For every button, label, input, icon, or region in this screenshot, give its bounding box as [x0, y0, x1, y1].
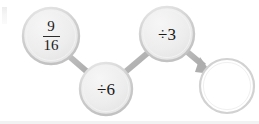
flow-diagram	[0, 0, 259, 124]
node-answer-blank[interactable]	[200, 59, 254, 113]
node-operation-1[interactable]	[80, 63, 132, 115]
node-start-value[interactable]	[23, 8, 79, 64]
connector-op1-to-op2	[124, 51, 150, 73]
diagram-canvas: 9 16 ÷6 ÷3	[0, 0, 259, 124]
node-operation-2[interactable]	[140, 7, 194, 61]
